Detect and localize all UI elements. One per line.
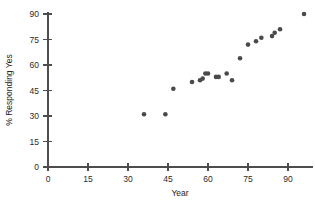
x-tick-label: 15 bbox=[83, 174, 93, 184]
data-point bbox=[272, 30, 277, 35]
data-point bbox=[190, 80, 195, 85]
cropped-caption bbox=[40, 0, 310, 4]
data-point bbox=[206, 71, 211, 76]
y-tick-label: 90 bbox=[30, 9, 40, 19]
data-point bbox=[259, 36, 264, 41]
data-point bbox=[224, 71, 229, 76]
data-point bbox=[200, 76, 205, 81]
y-tick-label: 75 bbox=[30, 35, 40, 45]
scatter-chart: 0153045607590 0153045607590 Year % Respo… bbox=[0, 0, 315, 204]
y-tick-label: 30 bbox=[30, 111, 40, 121]
data-point bbox=[238, 56, 243, 61]
y-tick-label: 0 bbox=[34, 162, 39, 172]
y-tick-label: 15 bbox=[30, 137, 40, 147]
plot-area: 0153045607590 0153045607590 Year % Respo… bbox=[0, 0, 315, 204]
y-tick-label: 60 bbox=[30, 60, 40, 70]
data-point bbox=[142, 112, 147, 117]
x-tick-label: 30 bbox=[123, 174, 133, 184]
data-point-series bbox=[142, 12, 307, 117]
data-point bbox=[278, 27, 283, 32]
data-point bbox=[230, 78, 235, 83]
x-tick-label: 0 bbox=[46, 174, 51, 184]
y-tick-label: 45 bbox=[30, 86, 40, 96]
data-point bbox=[171, 87, 176, 92]
x-tick-label: 75 bbox=[243, 174, 253, 184]
x-axis-title: Year bbox=[171, 188, 188, 198]
data-point bbox=[302, 12, 307, 17]
y-axis-tick-labels: 0153045607590 bbox=[30, 9, 40, 172]
x-axis-tick-labels: 0153045607590 bbox=[46, 174, 293, 184]
y-axis-title: % Responding Yes bbox=[4, 54, 14, 125]
data-point bbox=[216, 75, 221, 80]
data-point bbox=[254, 39, 259, 44]
x-tick-label: 60 bbox=[203, 174, 213, 184]
x-tick-label: 45 bbox=[163, 174, 173, 184]
data-point bbox=[163, 112, 168, 117]
x-tick-label: 90 bbox=[283, 174, 293, 184]
data-point bbox=[246, 42, 251, 47]
